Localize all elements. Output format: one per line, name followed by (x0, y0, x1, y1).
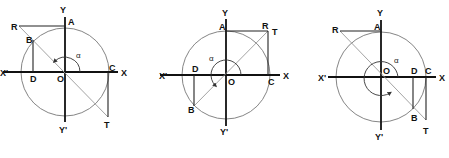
label-b: B (411, 113, 418, 123)
label-y-prime: Y' (220, 127, 228, 137)
panel-1: Y Y' X X' O A B C D R T α (0, 5, 127, 135)
label-c: C (109, 63, 116, 73)
label-y-prime: Y' (375, 132, 383, 142)
label-a: A (374, 22, 381, 32)
label-a: A (68, 17, 75, 27)
label-angle: α (394, 56, 399, 65)
label-t: T (423, 126, 429, 136)
label-x-prime: X' (159, 71, 167, 81)
label-c: C (425, 66, 432, 76)
label-t: T (104, 120, 110, 130)
label-o: O (383, 66, 390, 76)
panel-3: Y Y' X X' O A B C D R T α (318, 8, 445, 142)
label-x-prime: X' (318, 73, 326, 83)
label-x: X (121, 68, 127, 78)
label-x-prime: X' (0, 68, 8, 78)
label-angle: α (76, 51, 81, 60)
label-c: C (268, 77, 275, 87)
label-r: R (332, 25, 339, 35)
trig-circle-diagrams: Y Y' X X' O A B C D R T α Y Y' X X' O A … (0, 0, 449, 158)
label-a: A (219, 22, 226, 32)
label-d: D (192, 64, 199, 74)
label-y: Y (222, 8, 228, 18)
label-x: X (439, 73, 445, 83)
panel-2: Y Y' X X' O A B C D R T α (159, 8, 289, 137)
label-t: T (272, 27, 278, 37)
label-o: O (228, 77, 235, 87)
label-y-prime: Y' (59, 125, 67, 135)
label-angle: α (209, 54, 214, 63)
label-r: R (11, 22, 18, 32)
label-y: Y (60, 5, 66, 15)
label-x: X (283, 71, 289, 81)
line-bt (194, 31, 268, 106)
label-y: Y (377, 8, 383, 18)
label-o: O (57, 74, 64, 84)
label-b: B (26, 35, 33, 45)
label-r: R (262, 21, 269, 31)
label-d: D (30, 74, 37, 84)
label-d: D (411, 66, 418, 76)
label-b: B (188, 105, 195, 115)
